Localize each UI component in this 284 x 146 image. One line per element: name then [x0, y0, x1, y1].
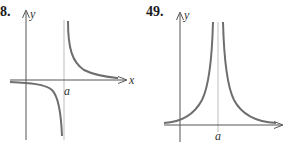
figure-48: 8. y x a	[0, 0, 142, 146]
x-axis-label: x	[128, 73, 135, 87]
graph-48: y x a	[0, 0, 142, 146]
curve-right-branch	[223, 22, 276, 123]
y-axis-label: y	[183, 8, 190, 22]
y-axis-label: y	[29, 7, 36, 21]
curve-left-branch	[164, 22, 213, 123]
curve-right-branch	[68, 21, 118, 78]
asymptote-label: a	[215, 129, 221, 143]
graph-49: y a	[142, 0, 284, 146]
figure-49: 49. y a	[142, 0, 284, 146]
asymptote-label: a	[64, 84, 70, 98]
curve-left-branch	[10, 82, 62, 136]
